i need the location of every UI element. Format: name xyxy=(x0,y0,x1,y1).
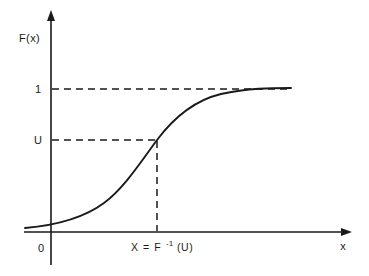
figure-canvas: F(x) 1 U 0 x X = F -1 (U) xyxy=(0,0,369,276)
cdf-curve xyxy=(25,88,291,228)
cdf-inverse-transform-diagram: F(x) 1 U 0 x X = F -1 (U) xyxy=(0,0,369,276)
x-inverse-label-argument: (U) xyxy=(177,241,193,253)
y-axis-arrow-icon xyxy=(47,10,55,21)
y-tick-label-one: 1 xyxy=(35,83,41,95)
guide-lines-group xyxy=(52,89,291,231)
x-inverse-label-group: X = F -1 (U) xyxy=(131,239,193,253)
x-axis-arrow-icon xyxy=(341,228,352,236)
x-inverse-label-exponent: -1 xyxy=(166,239,173,248)
x-axis-label: x xyxy=(340,240,346,252)
axes-group xyxy=(24,10,352,265)
y-tick-label-u: U xyxy=(34,134,42,146)
x-inverse-label-base: X = F xyxy=(131,241,162,253)
y-axis-label: F(x) xyxy=(19,32,40,44)
origin-label-zero: 0 xyxy=(38,242,44,254)
